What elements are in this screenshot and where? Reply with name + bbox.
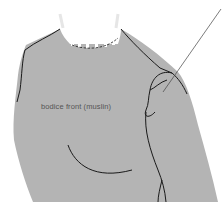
bodice-label: bodice front (muslin) bbox=[41, 102, 111, 111]
pin bbox=[163, 9, 221, 92]
neck-ghost bbox=[60, 14, 118, 28]
bodice-fabric-shape bbox=[13, 29, 218, 202]
